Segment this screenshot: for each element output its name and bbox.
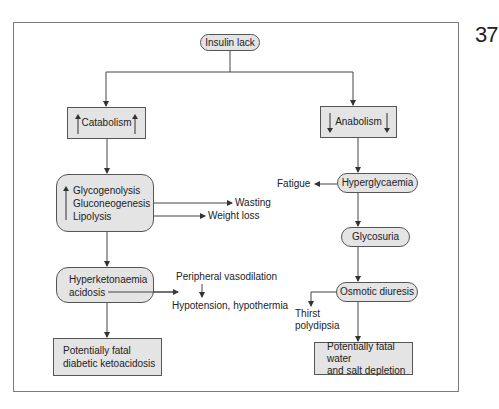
acidosis-label: acidosis	[69, 286, 147, 299]
gluconeogenesis-label: Gluconeogenesis	[73, 197, 150, 210]
down-arrow-icon	[327, 113, 333, 133]
up-arrow-icon	[132, 114, 138, 134]
catabolism-label: Catabolism	[81, 117, 131, 129]
catabolic-processes-node: Glycogenolysis Gluconeogenesis Lipolysis	[56, 174, 154, 232]
thirst-label: Thirst	[295, 308, 320, 320]
fatigue-label: Fatigue	[277, 178, 310, 190]
up-arrow-icon	[75, 114, 81, 134]
hypotension-label: Hypotension, hypothermia	[172, 300, 288, 312]
hyperglycaemia-node: Hyperglycaemia	[337, 173, 418, 193]
glycosuria-node: Glycosuria	[341, 227, 410, 247]
hyperketonaemia-node: Hyperketonaemia acidosis	[56, 267, 154, 303]
insulin-lack-label: Insulin lack	[205, 37, 254, 49]
wasting-label: Wasting	[235, 197, 271, 209]
fatal-dka-node: Potentially fatal diabetic ketoacidosis	[53, 338, 162, 376]
glycosuria-label: Glycosuria	[352, 231, 399, 243]
fatal-dka-line1: Potentially fatal	[63, 344, 155, 357]
polydipsia-label: polydipsia	[295, 320, 339, 332]
hyperglycaemia-label: Hyperglycaemia	[342, 177, 414, 189]
catabolism-node: Catabolism	[67, 107, 146, 139]
anabolism-label: Anabolism	[335, 116, 382, 128]
up-arrow-icon	[63, 186, 69, 220]
anabolism-node: Anabolism	[320, 106, 397, 138]
hyperketonaemia-label: Hyperketonaemia	[69, 273, 147, 286]
lipolysis-label: Lipolysis	[73, 210, 150, 223]
insulin-lack-node: Insulin lack	[200, 34, 260, 51]
fatal-water-node: Potentially fatal water and salt depleti…	[314, 342, 413, 375]
osmotic-diuresis-label: Osmotic diuresis	[340, 286, 414, 298]
osmotic-diuresis-node: Osmotic diuresis	[336, 282, 418, 302]
fatal-water-line2: and salt depletion	[327, 365, 412, 377]
glycogenolysis-label: Glycogenolysis	[73, 184, 150, 197]
fatal-dka-line2: diabetic ketoacidosis	[63, 357, 155, 370]
weight-loss-label: Weight loss	[208, 210, 260, 222]
peripheral-vasodilation-label: Peripheral vasodilation	[176, 271, 277, 283]
down-arrow-icon	[384, 113, 390, 133]
fatal-water-line1: Potentially fatal water	[327, 341, 412, 365]
